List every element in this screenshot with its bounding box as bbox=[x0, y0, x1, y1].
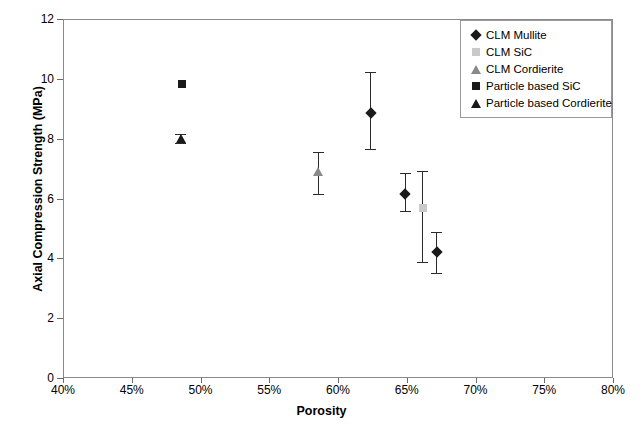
y-axis-tick-label: 6 bbox=[14, 192, 54, 206]
diamond-marker-icon bbox=[399, 188, 410, 199]
diamond-marker-icon bbox=[431, 246, 442, 257]
x-axis-tick-label: 70% bbox=[446, 383, 506, 397]
x-axis-title: Porosity bbox=[0, 404, 643, 418]
legend-item[interactable]: CLM Cordierite bbox=[461, 60, 611, 77]
x-axis-tick-mark bbox=[201, 378, 202, 383]
x-axis-tick-mark bbox=[476, 378, 477, 383]
error-bar-cap-lower bbox=[313, 194, 324, 195]
x-axis-tick-mark bbox=[63, 378, 64, 383]
square-marker-icon bbox=[419, 204, 427, 212]
legend-marker-diamond-icon bbox=[469, 28, 483, 42]
legend-item[interactable]: CLM SiC bbox=[461, 43, 611, 60]
legend-marker-square-icon bbox=[469, 45, 483, 59]
y-axis-tick-label: 8 bbox=[14, 132, 54, 146]
triangle-marker-icon bbox=[471, 99, 481, 108]
error-bar-cap-upper bbox=[365, 72, 376, 73]
error-bar-cap-lower bbox=[400, 211, 411, 212]
x-axis-tick-label: 50% bbox=[171, 383, 231, 397]
x-axis-tick-mark bbox=[132, 378, 133, 383]
y-axis-tick-label: 4 bbox=[14, 251, 54, 265]
x-axis-tick-mark bbox=[544, 378, 545, 383]
x-axis-tick-label: 40% bbox=[33, 383, 93, 397]
error-bar-line bbox=[422, 171, 423, 262]
legend-item-label: CLM Cordierite bbox=[486, 63, 563, 75]
x-axis-tick-label: 75% bbox=[514, 383, 574, 397]
legend-item-label: CLM SiC bbox=[486, 46, 532, 58]
x-axis-tick-mark bbox=[613, 378, 614, 383]
x-axis-tick-label: 80% bbox=[583, 383, 643, 397]
legend-item-label: Particle based Cordierite bbox=[486, 97, 612, 109]
legend-item[interactable]: Particle based Cordierite bbox=[461, 94, 611, 111]
y-axis-tick-label: 10 bbox=[14, 72, 54, 86]
square-marker-icon bbox=[178, 80, 186, 88]
legend-marker-triangle-icon bbox=[469, 62, 483, 76]
triangle-marker-icon bbox=[313, 167, 323, 176]
error-bar-cap-lower bbox=[431, 273, 442, 274]
x-axis-tick-label: 55% bbox=[239, 383, 299, 397]
error-bar-cap-upper bbox=[417, 171, 428, 172]
legend-marker-square-icon bbox=[469, 79, 483, 93]
chart-legend: CLM MulliteCLM SiCCLM CordieriteParticle… bbox=[460, 20, 612, 118]
legend-item[interactable]: CLM Mullite bbox=[461, 26, 611, 43]
error-bar-cap-lower bbox=[365, 149, 376, 150]
square-marker-icon bbox=[472, 82, 480, 90]
legend-marker-triangle-icon bbox=[469, 96, 483, 110]
legend-item-label: CLM Mullite bbox=[486, 29, 547, 41]
error-bar-cap-upper bbox=[400, 173, 411, 174]
legend-item-label: Particle based SiC bbox=[486, 80, 581, 92]
legend-item[interactable]: Particle based SiC bbox=[461, 77, 611, 94]
x-axis-tick-mark bbox=[269, 378, 270, 383]
x-axis-tick-label: 65% bbox=[377, 383, 437, 397]
y-axis-tick-label: 12 bbox=[14, 12, 54, 26]
x-axis-tick-label: 45% bbox=[102, 383, 162, 397]
error-bar-cap-lower bbox=[417, 262, 428, 263]
diamond-marker-icon bbox=[470, 29, 481, 40]
x-axis-tick-mark bbox=[338, 378, 339, 383]
triangle-marker-icon bbox=[176, 134, 186, 143]
chart-container: Axial Compression Strength (MPa) Porosit… bbox=[0, 0, 643, 444]
diamond-marker-icon bbox=[365, 107, 376, 118]
x-axis-tick-label: 60% bbox=[308, 383, 368, 397]
triangle-marker-icon bbox=[471, 65, 481, 74]
error-bar-cap-upper bbox=[313, 152, 324, 153]
error-bar-cap-upper bbox=[431, 232, 442, 233]
square-marker-icon bbox=[472, 48, 480, 56]
x-axis-tick-mark bbox=[407, 378, 408, 383]
y-axis-tick-label: 2 bbox=[14, 311, 54, 325]
